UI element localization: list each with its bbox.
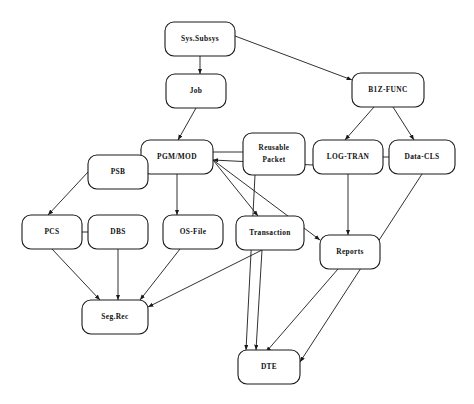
- node-log_tran[interactable]: LOG-TRAN: [313, 140, 383, 174]
- node-data_cls[interactable]: Data-CLS: [389, 140, 455, 174]
- node-dbs[interactable]: DBS: [88, 215, 148, 249]
- node-pcs[interactable]: PCS: [22, 215, 82, 249]
- nodes-layer: Sys.SubsysJobB1Z-FUNCPGM/MODReusablePack…: [22, 22, 455, 384]
- node-label-log_tran: LOG-TRAN: [327, 152, 370, 161]
- node-label-b1z_func: B1Z-FUNC: [368, 85, 407, 94]
- node-label-sys_subsys: Sys.Subsys: [181, 34, 219, 43]
- edge-job-to-pgm_mod: [178, 108, 196, 140]
- node-label-dbs: DBS: [110, 227, 125, 236]
- node-dte[interactable]: DTE: [238, 350, 300, 384]
- node-b1z_func[interactable]: B1Z-FUNC: [352, 73, 424, 107]
- node-label-psb: PSB: [111, 167, 126, 176]
- node-label-reusable_packet-line2: Packet: [263, 156, 286, 164]
- edge-psb-to-pcs: [48, 172, 88, 215]
- edge-pcs-to-seg_rec: [52, 249, 100, 300]
- node-label-job: Job: [190, 86, 203, 95]
- node-psb[interactable]: PSB: [88, 155, 148, 189]
- edge-transaction-to-dte: [256, 250, 262, 350]
- node-pgm_mod[interactable]: PGM/MOD: [141, 140, 213, 174]
- edge-sys_subsys-to-b1z_func: [235, 36, 352, 80]
- node-transaction[interactable]: Transaction: [236, 216, 304, 250]
- node-os_file[interactable]: OS-File: [163, 215, 223, 249]
- node-seg_rec[interactable]: Seg.Rec: [82, 300, 148, 334]
- edge-b1z_func-to-data_cls: [393, 107, 414, 140]
- node-label-pgm_mod: PGM/MOD: [157, 152, 197, 161]
- node-label-reports: Reports: [336, 247, 364, 256]
- edge-reports-to-dte: [266, 269, 338, 352]
- node-reports[interactable]: Reports: [320, 235, 380, 269]
- node-label-dte: DTE: [261, 362, 277, 371]
- node-label-pcs: PCS: [44, 227, 59, 236]
- node-box-reusable_packet[interactable]: [243, 133, 305, 175]
- node-job[interactable]: Job: [166, 74, 226, 108]
- node-label-reusable_packet-line1: Reusable: [259, 144, 290, 152]
- diagram-canvas: Sys.SubsysJobB1Z-FUNCPGM/MODReusablePack…: [0, 0, 474, 404]
- edge-os_file-to-seg_rec: [140, 249, 180, 300]
- node-label-seg_rec: Seg.Rec: [101, 312, 129, 321]
- diagram-svg: Sys.SubsysJobB1Z-FUNCPGM/MODReusablePack…: [0, 0, 474, 404]
- node-label-os_file: OS-File: [180, 227, 207, 236]
- edge-b1z_func-to-log_tran: [345, 107, 374, 140]
- node-label-data_cls: Data-CLS: [405, 152, 440, 161]
- edge-reusable_packet-to-dte: [246, 175, 255, 350]
- node-label-transaction: Transaction: [249, 228, 291, 237]
- node-reusable_packet[interactable]: ReusablePacket: [243, 133, 305, 175]
- node-sys_subsys[interactable]: Sys.Subsys: [165, 22, 235, 56]
- edge-transaction-to-seg_rec: [148, 250, 262, 307]
